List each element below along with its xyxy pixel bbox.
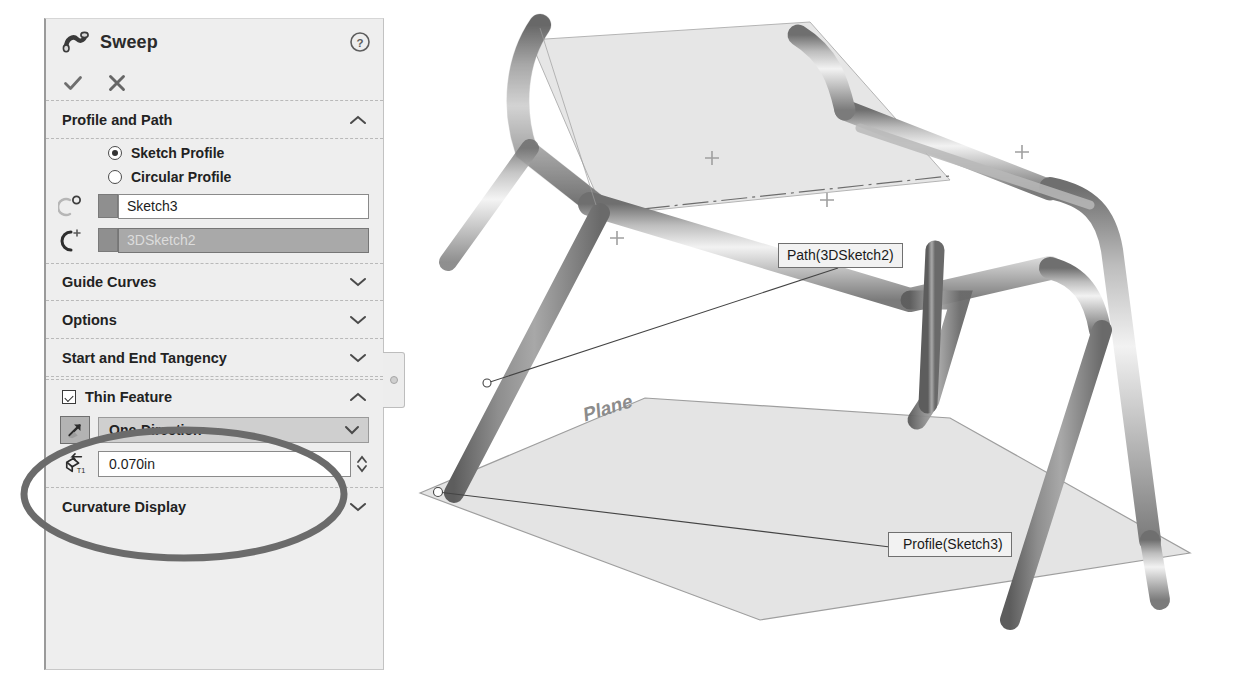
path-selector-icon: [58, 227, 92, 253]
graphics-viewport[interactable]: Plane: [390, 0, 1234, 688]
radio-button-filled-icon[interactable]: [108, 146, 122, 160]
chevron-down-icon[interactable]: [349, 276, 367, 288]
thin-direction-dropdown[interactable]: One-Direction: [98, 417, 369, 443]
chevron-down-icon[interactable]: [344, 425, 360, 435]
panel-pin-tab[interactable]: [383, 352, 405, 408]
chevron-up-icon[interactable]: [349, 114, 367, 126]
thin-thickness-value: 0.070in: [109, 456, 155, 472]
section-title: Thin Feature: [85, 389, 172, 405]
section-header-profile-and-path[interactable]: Profile and Path: [46, 101, 383, 139]
callout-path-label[interactable]: Path(3DSketch2): [778, 243, 903, 268]
svg-text:T1: T1: [77, 466, 86, 475]
thickness-t1-icon: T1: [60, 450, 90, 478]
profile-color-swatch: [98, 194, 118, 218]
panel-action-row: [46, 65, 383, 101]
section-title: Guide Curves: [62, 274, 156, 290]
chevron-up-icon[interactable]: [349, 391, 367, 403]
selection-row-path[interactable]: 3DSketch2: [46, 223, 383, 257]
checkmark-icon[interactable]: [62, 72, 84, 94]
thin-direction-value: One-Direction: [109, 422, 202, 438]
thin-feature-checkbox[interactable]: [62, 390, 76, 404]
path-selection-field[interactable]: 3DSketch2: [118, 228, 369, 253]
section-title: Profile and Path: [62, 112, 172, 128]
profile-selection-field[interactable]: Sketch3: [118, 194, 369, 219]
section-title: Options: [62, 312, 117, 328]
radio-button-empty-icon[interactable]: [108, 170, 122, 184]
thin-thickness-input[interactable]: 0.070in: [98, 451, 351, 477]
thickness-arrow-icon: T1: [63, 453, 87, 475]
close-icon[interactable]: [106, 72, 128, 94]
section-header-options[interactable]: Options: [46, 301, 383, 339]
section-header-thin-feature[interactable]: Thin Feature: [46, 379, 383, 413]
sweep-icon: [62, 28, 90, 56]
section-title: Curvature Display: [62, 499, 186, 515]
spinner-icon[interactable]: [355, 451, 369, 477]
chevron-down-icon[interactable]: [349, 314, 367, 326]
panel-title-bar: Sweep ?: [46, 19, 383, 65]
thin-feature-thickness-row[interactable]: T1 0.070in: [46, 447, 383, 481]
section-header-guide-curves[interactable]: Guide Curves: [46, 263, 383, 301]
radio-circular-profile[interactable]: Circular Profile: [46, 165, 383, 189]
sweep-property-manager: Sweep ? Profile and Path Sk: [44, 18, 384, 670]
radio-label: Circular Profile: [131, 169, 231, 185]
radio-sketch-profile[interactable]: Sketch Profile: [46, 141, 383, 165]
svg-text:?: ?: [356, 37, 363, 49]
section-header-curvature-display[interactable]: Curvature Display: [46, 487, 383, 525]
thin-feature-direction-row[interactable]: One-Direction: [46, 413, 383, 447]
selection-row-profile[interactable]: Sketch3: [46, 189, 383, 223]
thin-direction-icon[interactable]: [60, 416, 90, 444]
solidworks-sweep-screen: Plane: [0, 0, 1234, 688]
callout-profile-label[interactable]: Profile(Sketch3): [888, 532, 1012, 557]
radio-label: Sketch Profile: [131, 145, 224, 161]
model-canvas: Plane: [390, 0, 1234, 688]
chevron-down-icon[interactable]: [349, 501, 367, 513]
page-title: Sweep: [100, 32, 158, 53]
section-header-start-and-end-tangency[interactable]: Start and End Tangency: [46, 339, 383, 377]
section-title: Start and End Tangency: [62, 350, 227, 366]
path-color-swatch: [98, 228, 118, 252]
profile-selector-icon: [58, 193, 92, 219]
chevron-down-icon[interactable]: [349, 352, 367, 364]
pin-dot-icon: [390, 376, 398, 384]
help-icon[interactable]: ?: [349, 31, 371, 53]
section-body-profile-and-path: Sketch Profile Circular Profile Sketch3: [46, 139, 383, 263]
arrow-up-right-icon: [65, 420, 85, 440]
